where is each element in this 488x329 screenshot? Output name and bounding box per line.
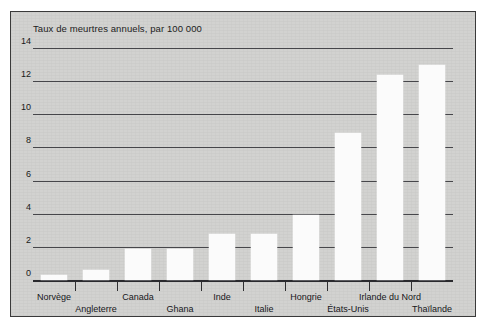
x-axis-tick [327,282,328,291]
y-axis-tick-label: 14 [11,36,31,46]
x-axis-tick [411,282,412,291]
x-axis-category-label: Norvège [37,292,71,302]
x-axis-category-label: Angleterre [75,304,117,314]
bar [251,234,276,280]
x-axis-category-label: Irlande du Nord [359,292,421,302]
x-axis-tick [285,282,286,291]
y-axis-tick-label: 10 [11,102,31,112]
bar [125,249,150,280]
x-axis-category-label: Hongrie [290,292,322,302]
y-axis-tick-label: 0 [11,268,31,278]
bar [41,275,66,280]
figure: Taux de meurtres annuels, par 100 000 02… [0,0,488,329]
bar [167,249,192,280]
y-axis-tick-label: 8 [11,135,31,145]
x-axis-tick [369,282,370,291]
x-axis-category-label: Inde [213,292,231,302]
x-axis-tick [201,282,202,291]
y-axis-tick-label: 12 [11,69,31,79]
x-axis-tick [243,282,244,291]
bar [419,65,444,280]
bar [377,75,402,280]
x-axis-category-label: Canada [122,292,154,302]
bar [293,215,318,280]
bar [209,234,234,280]
x-axis-category-label: États-Unis [327,304,369,314]
x-axis-category-label: Italie [254,304,273,314]
gridline-14 [33,48,453,49]
x-axis-category-label: Thaïlande [412,304,452,314]
chart-panel: Taux de meurtres annuels, par 100 000 02… [10,11,476,317]
y-axis-tick-label: 6 [11,169,31,179]
plot-area: 02468101214NorvègeAngleterreCanadaGhanaI… [11,12,475,316]
x-axis-tick [75,282,76,291]
x-axis-tick [159,282,160,291]
y-axis-tick-label: 2 [11,235,31,245]
bar [83,270,108,280]
y-axis-tick-label: 4 [11,202,31,212]
bar [335,133,360,280]
x-axis-category-label: Ghana [166,304,193,314]
x-axis-tick [117,282,118,291]
